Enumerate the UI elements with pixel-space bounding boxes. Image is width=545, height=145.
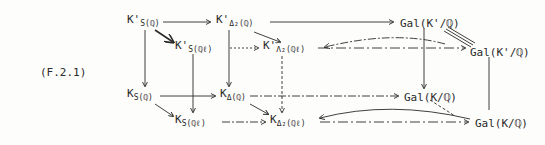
diagram-arrows (0, 0, 545, 145)
